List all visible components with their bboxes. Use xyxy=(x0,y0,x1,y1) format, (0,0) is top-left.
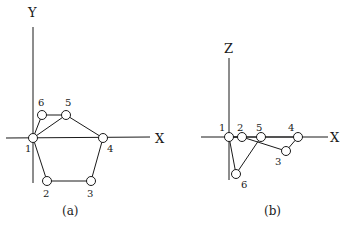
node-5-label: 5 xyxy=(65,97,71,108)
x-axis-label: X xyxy=(155,131,165,146)
node-3 xyxy=(87,177,96,186)
node-4-label: 4 xyxy=(107,143,113,154)
node-2-label: 2 xyxy=(43,188,49,199)
edge-b-6-1 xyxy=(229,137,236,174)
z-axis-label: Z xyxy=(224,41,233,56)
node-b-6 xyxy=(232,170,241,179)
node-1-label: 1 xyxy=(25,143,31,154)
node-b-6-label: 6 xyxy=(241,179,247,190)
node-b-2-label: 2 xyxy=(237,122,243,133)
edge-3-4 xyxy=(91,138,103,181)
edge-1-2 xyxy=(33,138,47,181)
x-axis-label-b: X xyxy=(330,130,340,145)
node-b-2 xyxy=(238,133,247,142)
diagram-canvas: Y X 1 2 3 4 5 6 (a) Z X xyxy=(0,0,345,227)
node-2 xyxy=(43,177,52,186)
node-b-3-label: 3 xyxy=(275,156,281,167)
node-b-4 xyxy=(294,133,303,142)
caption-a: (a) xyxy=(62,204,79,218)
node-6 xyxy=(38,111,47,120)
caption-b: (b) xyxy=(264,204,281,218)
node-b-4-label: 4 xyxy=(288,122,294,133)
edge-4-5 xyxy=(66,115,103,138)
y-axis-label: Y xyxy=(27,5,37,20)
node-b-5 xyxy=(257,133,266,142)
node-4 xyxy=(99,134,108,143)
panel-a: Y X 1 2 3 4 5 6 (a) xyxy=(6,5,165,218)
node-b-1 xyxy=(225,133,234,142)
node-1 xyxy=(29,134,38,143)
panel-b: Z X 1 2 3 4 5 6 (b) xyxy=(201,41,340,218)
node-6-label: 6 xyxy=(38,97,44,108)
edge-b-5-6 xyxy=(236,137,261,174)
node-b-3 xyxy=(282,147,291,156)
node-3-label: 3 xyxy=(87,188,93,199)
x-axis xyxy=(6,137,150,138)
node-5 xyxy=(62,111,71,120)
node-b-1-label: 1 xyxy=(219,122,225,133)
node-b-5-label: 5 xyxy=(256,122,262,133)
